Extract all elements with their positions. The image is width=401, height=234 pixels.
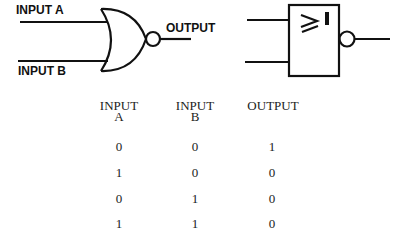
table-cell: 0	[175, 165, 215, 181]
table-cell: 0	[99, 191, 139, 207]
table-cell: 0	[175, 139, 215, 155]
table-cell: 0	[252, 165, 292, 181]
table-cell: 1	[252, 139, 292, 155]
header-input-b: INPUT B	[170, 100, 220, 122]
table-cell: 1	[99, 216, 139, 232]
table-cell: 1	[99, 165, 139, 181]
table-cell: 0	[99, 139, 139, 155]
truth-table: INPUT A INPUT B OUTPUT 0 0 1 1 0 0 0 1 0…	[0, 0, 401, 234]
header-input-a: INPUT A	[94, 100, 144, 122]
table-cell: 0	[252, 216, 292, 232]
table-cell: 1	[175, 216, 215, 232]
table-cell: 1	[175, 191, 215, 207]
table-cell: 0	[252, 191, 292, 207]
header-output: OUTPUT	[242, 100, 304, 111]
header-line: OUTPUT	[242, 100, 304, 111]
